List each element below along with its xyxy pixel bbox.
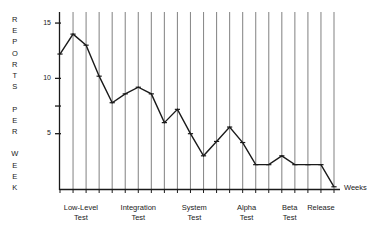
x-category-label: Low-Level Test: [51, 203, 111, 223]
x-axis-title: Weeks: [344, 183, 367, 192]
x-category-label: Integration Test: [108, 203, 168, 223]
y-tick-label: 15: [33, 19, 51, 26]
vertical-gridlines: [73, 12, 334, 189]
chart-plot-area: [0, 0, 375, 235]
data-series-line: [60, 34, 334, 187]
x-category-label: System Test: [164, 203, 224, 223]
reports-per-week-line-chart: R E P O R T S P E R W E E K 51015 Low-Le…: [0, 0, 375, 235]
y-tick-label: 5: [33, 129, 51, 136]
y-tick-label: 10: [33, 74, 51, 81]
x-category-label: Release: [291, 203, 351, 213]
